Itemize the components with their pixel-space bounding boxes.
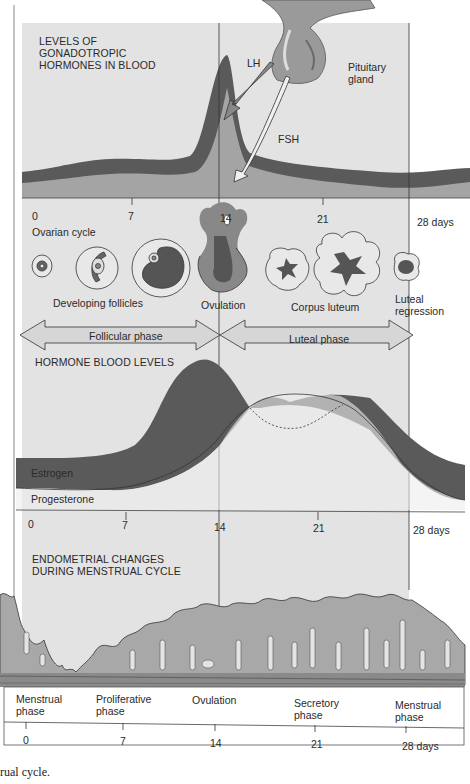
top-axis-tick-0: 0 bbox=[32, 210, 38, 222]
hormone-levels-title: HORMONE BLOOD LEVELS bbox=[35, 356, 174, 368]
mid-axis-tick-21: 21 bbox=[313, 522, 325, 534]
lh-label: LH bbox=[247, 57, 260, 69]
luteal-phase-label: Luteal phase bbox=[289, 333, 349, 345]
corpus-luteum-label: Corpus luteum bbox=[291, 301, 359, 313]
bottom-axis-tick-14: 14 bbox=[210, 737, 222, 749]
endometrial-phase-menstrual-start: Menstrual phase bbox=[16, 693, 62, 717]
mid-axis-tick-0: 0 bbox=[28, 518, 34, 530]
top-axis-tick-21: 21 bbox=[317, 213, 329, 225]
endometrial-phase-ovulation: Ovulation bbox=[192, 694, 236, 706]
bottom-axis-tick-21: 21 bbox=[311, 738, 323, 750]
menstrual-cycle-diagram bbox=[0, 0, 470, 784]
pituitary-label: Pituitary gland bbox=[348, 61, 386, 85]
endometrial-phase-proliferative: Proliferative phase bbox=[96, 693, 151, 717]
bottom-axis-tick-0: 0 bbox=[23, 734, 29, 746]
mid-axis-tick-28: 28 days bbox=[413, 524, 450, 536]
progesterone-label: Progesterone bbox=[31, 493, 94, 505]
ovarian-cycle-title: Ovarian cycle bbox=[32, 226, 96, 238]
estrogen-label: Estrogen bbox=[31, 467, 73, 479]
gonadotropic-title: LEVELS OF GONADOTROPIC HORMONES IN BLOOD bbox=[39, 35, 156, 71]
follicular-phase-label: Follicular phase bbox=[89, 330, 163, 342]
developing-follicles-label: Developing follicles bbox=[53, 297, 143, 309]
top-axis-tick-14: 14 bbox=[220, 212, 232, 224]
bottom-axis-tick-7: 7 bbox=[120, 735, 126, 747]
fsh-label: FSH bbox=[278, 133, 299, 145]
endometrial-phase-secretory: Secretory phase bbox=[294, 697, 339, 721]
figure-caption: rual cycle. bbox=[0, 765, 50, 780]
top-axis-tick-7: 7 bbox=[128, 210, 134, 222]
endometrial-title: ENDOMETRIAL CHANGES DURING MENSTRUAL CYC… bbox=[32, 553, 181, 577]
bottom-axis-tick-28: 28 days bbox=[402, 740, 439, 752]
ovulation-label: Ovulation bbox=[201, 299, 245, 311]
mid-axis-tick-7: 7 bbox=[122, 519, 128, 531]
endometrial-phase-menstrual-end: Menstrual phase bbox=[395, 699, 441, 723]
luteal-regression-label: Luteal regression bbox=[395, 293, 444, 317]
mid-axis-tick-14: 14 bbox=[214, 521, 226, 533]
top-axis-tick-28: 28 days bbox=[417, 216, 454, 228]
